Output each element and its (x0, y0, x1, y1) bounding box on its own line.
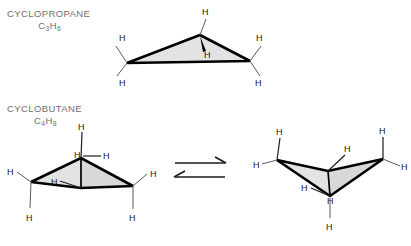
cyclopropane-bond-left-upper-h (116, 46, 127, 63)
cyclopropane-h-left-lower: H (119, 78, 126, 88)
cyclobutane-right-bond-right-outer-h (383, 159, 400, 166)
cyclobutane-right-bond-left-up-h (277, 138, 280, 160)
cyclopropane-bond-top-h (200, 19, 206, 35)
equilibrium-reverse-arrow-head (174, 171, 185, 177)
diagram-canvas: CYCLOPROPANE C3H6 CYCLOBUTANE C4H8 H H H… (0, 0, 411, 246)
cyclobutane-left-bond-apex-up-h (81, 132, 82, 158)
cyclobutane-left-h-apex-up: H (78, 122, 85, 132)
cyclopropane-h-center-inner: H (204, 50, 211, 60)
cyclopropane-structure: H H H H H H (116, 7, 263, 88)
cyclobutane-right-h-right-outer: H (401, 162, 408, 172)
cyclopropane-h-left-upper: H (119, 33, 126, 43)
cyclobutane-left-h-left-down: H (26, 213, 33, 223)
cyclobutane-right-bond-left-outer-h (262, 160, 277, 164)
cyclobutane-left-h-apex-label: H (74, 150, 81, 160)
cyclobutane-right-structure: H H H H H H H H (253, 126, 408, 232)
equilibrium-arrows (174, 157, 226, 177)
cyclobutane-left-h-right-outer: H (150, 169, 157, 179)
cyclobutane-right-h-left-outer: H (253, 160, 260, 170)
cyclobutane-left-h-left-outer: H (7, 167, 14, 177)
cyclopropane-bond-right-lower-h (250, 61, 260, 76)
cyclobutane-left-bond-right-outer-h (133, 174, 147, 186)
cyclobutane-right-h-inner-upper: H (344, 144, 351, 154)
structures-svg: H H H H H H (0, 0, 411, 246)
equilibrium-forward-arrow-head (215, 157, 226, 163)
cyclopropane-h-top: H (202, 7, 209, 17)
cyclopropane-h-right-upper: H (256, 33, 263, 43)
cyclobutane-left-h-inner: H (51, 177, 58, 187)
cyclobutane-right-h-bottom-left: H (301, 183, 308, 193)
cyclopropane-bond-right-upper-h (250, 46, 261, 61)
cyclobutane-left-bond-left-down-h (30, 182, 31, 208)
cyclobutane-left-structure: H H H H H H H H (7, 122, 157, 223)
cyclopropane-bond-left-lower-h (117, 63, 127, 76)
cyclobutane-left-h-right-down: H (129, 213, 136, 223)
cyclobutane-right-h-right-up: H (379, 126, 386, 136)
cyclobutane-right-h-bottom-down: H (326, 222, 333, 232)
cyclobutane-left-h-apex-right: H (103, 151, 110, 161)
cyclobutane-right-h-left-up: H (276, 127, 283, 137)
cyclopropane-h-right-lower: H (255, 78, 262, 88)
cyclobutane-left-bond-left-outer-h (17, 172, 31, 182)
